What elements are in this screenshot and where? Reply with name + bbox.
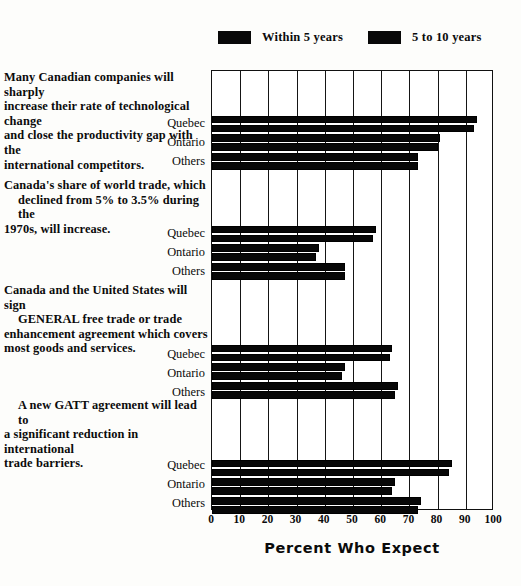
bar-pair-others xyxy=(212,263,494,282)
region-label-ontario: Ontario xyxy=(167,133,205,152)
bar-within-5-years xyxy=(212,244,319,252)
bar-5-to-10-years xyxy=(212,354,390,362)
bar-5-to-10-years xyxy=(212,469,449,477)
bar-5-to-10-years xyxy=(212,235,373,243)
region-label-others: Others xyxy=(167,494,205,513)
bar-within-5-years xyxy=(212,345,392,353)
bar-pair-others xyxy=(212,382,494,401)
region-label-quebec: Quebec xyxy=(167,345,205,364)
bar-pair-ontario xyxy=(212,478,494,497)
bar-pair-others xyxy=(212,153,494,172)
x-axis-ticks: 0102030405060708090100 xyxy=(211,513,493,529)
bar-5-to-10-years xyxy=(212,253,316,261)
question-line: Many Canadian companies will sharply xyxy=(4,70,210,99)
question-line: GENERAL free trade or trade xyxy=(4,312,210,327)
bar-within-5-years xyxy=(212,497,421,505)
bar-within-5-years xyxy=(212,134,440,142)
bar-group xyxy=(212,225,494,281)
x-axis-tick-label: 0 xyxy=(208,513,214,525)
question-line: A new GATT agreement will lead to xyxy=(4,398,210,427)
chart-plot-area xyxy=(211,70,493,510)
bar-5-to-10-years xyxy=(212,391,395,399)
region-label-ontario: Ontario xyxy=(167,364,205,383)
question-line: Canada's share of world trade, which xyxy=(4,178,210,193)
region-labels: Quebec Ontario Others xyxy=(167,456,205,512)
x-axis-tick-label: 20 xyxy=(262,513,274,525)
question-line: enhancement agreement which covers xyxy=(4,327,210,342)
bar-pair-quebec xyxy=(212,344,494,363)
region-label-others: Others xyxy=(167,152,205,171)
bar-pair-quebec xyxy=(212,225,494,244)
x-axis-tick-label: 40 xyxy=(318,513,330,525)
bar-within-5-years xyxy=(212,478,395,486)
question-line: a significant reduction in international xyxy=(4,427,210,456)
bar-within-5-years xyxy=(212,226,376,234)
question-line: declined from 5% to 3.5% during the xyxy=(4,193,210,222)
x-axis-tick-label: 80 xyxy=(431,513,443,525)
region-label-quebec: Quebec xyxy=(167,114,205,133)
bar-within-5-years xyxy=(212,153,418,161)
bar-within-5-years xyxy=(212,263,345,271)
bar-5-to-10-years xyxy=(212,162,418,170)
legend-label: 5 to 10 years xyxy=(412,30,482,45)
legend-swatch-icon xyxy=(218,31,251,44)
x-axis-title: Percent Who Expect xyxy=(211,540,493,556)
region-label-quebec: Quebec xyxy=(167,456,205,475)
legend-item-5-to-10-years: 5 to 10 years xyxy=(368,30,482,45)
bar-5-to-10-years xyxy=(212,143,438,151)
bar-group xyxy=(212,459,494,515)
region-label-others: Others xyxy=(167,262,205,281)
bar-5-to-10-years xyxy=(212,372,342,380)
region-labels: Quebec Ontario Others xyxy=(167,114,205,170)
bar-5-to-10-years xyxy=(212,125,474,133)
chart-legend: Within 5 years 5 to 10 years xyxy=(0,30,521,56)
bar-pair-quebec xyxy=(212,459,494,478)
bar-within-5-years xyxy=(212,460,452,468)
bar-group xyxy=(212,115,494,171)
legend-label: Within 5 years xyxy=(262,30,343,45)
bar-5-to-10-years xyxy=(212,487,392,495)
region-label-ontario: Ontario xyxy=(167,243,205,262)
region-labels: Quebec Ontario Others xyxy=(167,345,205,401)
bar-5-to-10-years xyxy=(212,272,345,280)
region-label-ontario: Ontario xyxy=(167,475,205,494)
x-axis-tick-label: 90 xyxy=(459,513,471,525)
region-label-quebec: Quebec xyxy=(167,224,205,243)
bar-group xyxy=(212,344,494,400)
bar-pair-ontario xyxy=(212,134,494,153)
x-axis-tick-label: 100 xyxy=(484,513,501,525)
x-axis-tick-label: 30 xyxy=(290,513,302,525)
bar-pair-quebec xyxy=(212,115,494,134)
bar-within-5-years xyxy=(212,116,477,124)
legend-swatch-icon xyxy=(368,31,401,44)
bar-within-5-years xyxy=(212,382,398,390)
bar-within-5-years xyxy=(212,363,345,371)
legend-item-within-5-years: Within 5 years xyxy=(218,30,343,45)
bar-pair-ontario xyxy=(212,244,494,263)
x-axis-tick-label: 50 xyxy=(346,513,358,525)
x-axis-tick-label: 10 xyxy=(233,513,245,525)
question-line: Canada and the United States will sign xyxy=(4,283,210,312)
x-axis-tick-label: 60 xyxy=(374,513,386,525)
bar-pair-ontario xyxy=(212,363,494,382)
region-labels: Quebec Ontario Others xyxy=(167,224,205,280)
x-axis-tick-label: 70 xyxy=(403,513,415,525)
